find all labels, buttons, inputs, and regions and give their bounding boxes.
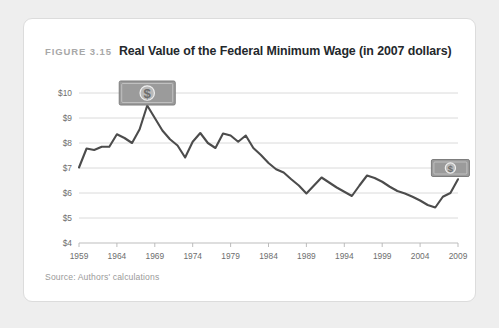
y-tick-label: $10 — [58, 88, 72, 98]
x-tick-label: 2004 — [411, 251, 430, 261]
y-tick-label: $5 — [63, 213, 73, 223]
x-tick-label: 1989 — [297, 251, 316, 261]
x-axis-tick-labels: 1959196419691974197919841989199419992004… — [70, 251, 468, 261]
y-tick-label: $9 — [63, 113, 73, 123]
x-tick-label: 1984 — [259, 251, 278, 261]
x-tick-label: 1994 — [335, 251, 354, 261]
x-tick-label: 1974 — [183, 251, 202, 261]
y-axis-tick-labels: $4$5$6$7$8$9$10 — [58, 88, 72, 248]
x-tick-label: 1979 — [221, 251, 240, 261]
y-tick-label: $7 — [63, 163, 73, 173]
y-tick-label: $6 — [63, 188, 73, 198]
x-tick-label: 1999 — [373, 251, 392, 261]
dollar-bill-icon-end: $ — [431, 160, 469, 177]
source-note: Source: Authors' calculations — [45, 272, 159, 282]
figure-card: FIGURE 3.15Real Value of the Federal Min… — [23, 18, 476, 302]
x-axis-tick-marks — [79, 243, 458, 247]
dollar-bill-icon-peak: $ — [119, 81, 175, 105]
grid-lines — [79, 93, 458, 243]
data-series-line — [79, 106, 458, 208]
y-tick-label: $8 — [63, 138, 73, 148]
x-tick-label: 2009 — [449, 251, 468, 261]
x-tick-label: 1969 — [145, 251, 164, 261]
dollar-bill-annotations: $$ — [119, 81, 469, 177]
dollar-sign-glyph: $ — [448, 163, 454, 174]
dollar-sign-glyph: $ — [144, 86, 152, 101]
x-tick-label: 1959 — [70, 251, 89, 261]
x-tick-label: 1964 — [108, 251, 127, 261]
line-chart: $4$5$6$7$8$9$10 195919641969197419791984… — [24, 19, 477, 303]
y-tick-label: $4 — [63, 238, 73, 248]
